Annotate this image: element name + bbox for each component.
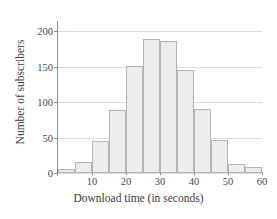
y-tick-label-150: 150	[37, 61, 53, 72]
x-tick-label-10: 10	[87, 176, 98, 187]
x-tick-mark-60	[262, 172, 263, 175]
histogram-bar	[245, 167, 262, 173]
y-tick-mark-0	[54, 173, 57, 174]
y-tick-label-200: 200	[37, 26, 53, 37]
y-axis-tick-labels: 050100150200	[0, 0, 53, 219]
y-tick-mark-100	[54, 102, 57, 103]
y-tick-label-100: 100	[37, 97, 53, 108]
y-tick-mark-200	[54, 31, 57, 32]
histogram-bar	[211, 140, 228, 173]
x-tick-mark-20	[126, 172, 127, 175]
y-tick-label-0: 0	[48, 168, 53, 179]
x-tick-label-30: 30	[155, 176, 166, 187]
histogram-bar	[109, 110, 126, 173]
histogram-bar	[75, 162, 92, 173]
y-tick-mark-50	[54, 138, 57, 139]
histogram-bar	[92, 141, 109, 173]
plot-area	[58, 24, 262, 173]
y-axis-title: Number of subscribers	[14, 17, 26, 167]
histogram-bar	[160, 41, 177, 173]
gridline-y-200	[58, 31, 262, 32]
x-tick-label-60: 60	[257, 176, 268, 187]
x-tick-mark-50	[228, 172, 229, 175]
x-tick-label-20: 20	[121, 176, 132, 187]
x-tick-mark-30	[160, 172, 161, 175]
histogram-bar	[143, 39, 160, 173]
x-tick-mark-10	[92, 172, 93, 175]
x-axis-title: Download time (in seconds)	[0, 192, 277, 204]
histogram-bar	[177, 70, 194, 173]
histogram-figure: 050100150200 Download time (in seconds) …	[0, 0, 277, 219]
histogram-bar	[126, 66, 143, 173]
x-tick-mark-40	[194, 172, 195, 175]
y-tick-mark-150	[54, 67, 57, 68]
histogram-bar	[58, 169, 75, 173]
x-tick-label-40: 40	[189, 176, 200, 187]
histogram-bar	[228, 164, 245, 173]
y-tick-label-50: 50	[43, 132, 54, 143]
histogram-bar	[194, 109, 211, 173]
x-tick-label-50: 50	[223, 176, 234, 187]
